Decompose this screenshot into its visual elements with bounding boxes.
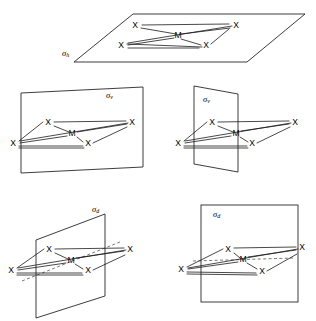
bond-m-to-x-top-left	[141, 28, 176, 34]
atom-label-m: M	[68, 128, 75, 138]
panel-sigma-d-left: X X X X M σd	[8, 205, 133, 318]
plane-label-sigma-d: σd	[92, 205, 100, 215]
atom-label-x: X	[46, 244, 52, 254]
bond-m-to-x-bottom	[240, 137, 248, 142]
edge-x-left-to-x-bottom-alt	[187, 274, 257, 275]
sigma-d-right-plane-outline	[201, 205, 298, 302]
symmetry-planes-figure: X X X X M σh X X X X M σv	[0, 0, 316, 321]
edge-x-bottom-to-x-right	[257, 127, 290, 143]
atom-label-x: X	[209, 117, 215, 127]
atom-label-x: X	[292, 117, 298, 127]
atom-label-x: X	[129, 117, 135, 127]
bond-m-to-x-bottom	[75, 264, 83, 269]
atom-label-x: X	[10, 138, 16, 148]
atom-label-m: M	[232, 128, 239, 138]
atom-label-x: X	[299, 242, 305, 252]
bond-m-to-x-top-left	[55, 253, 68, 259]
edge-x-top-left-to-x-right	[54, 121, 126, 122]
atom-label-x: X	[178, 264, 184, 274]
atom-label-x: X	[45, 117, 51, 127]
bond-m-to-x-top-left	[54, 126, 69, 132]
sigma-v-right-plane-outline	[194, 86, 238, 172]
sigma-v-left-plane-outline	[21, 87, 143, 173]
plane-label-sigma-v: σv	[203, 95, 210, 105]
atom-label-m: M	[174, 30, 181, 40]
edge-x-bottom-to-x-right	[93, 127, 127, 143]
edge-x-top-left-to-x-top-right	[142, 24, 229, 25]
atom-label-m: M	[239, 254, 246, 264]
edge-x-top-left-to-x-right	[234, 247, 296, 248]
figure-root: X X X X M σh X X X X M σv	[0, 0, 316, 321]
sigma-h-plane-outline	[74, 14, 305, 62]
edge-x-bottom-to-x-right	[267, 254, 297, 271]
atom-label-m: M	[67, 255, 74, 265]
panel-sigma-h: X X X X M σh	[62, 14, 305, 62]
panel-sigma-v-right: X X X X M σv	[175, 86, 298, 172]
atom-label-x: X	[85, 265, 91, 275]
atom-label-x: X	[203, 40, 209, 50]
edge-x-top-left-to-x-right	[55, 248, 124, 249]
edge-x-bottom-to-x-right	[93, 255, 125, 270]
atom-label-x: X	[175, 138, 181, 148]
edge-x-left-to-x-bottom	[187, 272, 256, 273]
plane-label-sigma-d: σd	[213, 210, 221, 220]
atom-label-x: X	[249, 138, 255, 148]
atom-label-x: X	[8, 265, 14, 275]
atom-label-x: X	[225, 244, 231, 254]
atom-label-x: X	[132, 20, 138, 30]
edge-x-top-left-to-x-right	[218, 121, 289, 122]
plane-label-sigma-h: σh	[62, 49, 69, 59]
panel-sigma-v-left: X X X X M σv	[10, 87, 143, 173]
atom-label-x: X	[233, 20, 239, 30]
atom-label-x: X	[127, 244, 133, 254]
bond-m-to-x-top-left	[218, 126, 233, 132]
edge-x-top-left-to-x-left	[17, 249, 44, 268]
panel-sigma-d-right: X X X X M σd	[178, 205, 305, 302]
bond-m-to-x-bottom-right	[181, 39, 201, 45]
atom-label-x: X	[118, 40, 124, 50]
atom-label-x: X	[259, 266, 265, 276]
plane-label-sigma-v: σv	[106, 91, 113, 101]
edge-x-top-right-to-x-bottom-right	[211, 29, 229, 44]
bond-m-to-x-bottom	[77, 137, 83, 142]
bond-m-to-x-bottom	[247, 263, 257, 269]
edge-x-bottom-left-to-x-bottom-right-alt	[127, 44, 202, 47]
edge-x-top-left-to-x-left	[187, 249, 223, 267]
atom-label-x: X	[85, 138, 91, 148]
